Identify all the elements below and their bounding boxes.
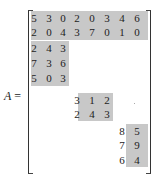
matrix-entry: 3 [42, 56, 56, 70]
matrix-entry: 0 [42, 25, 56, 39]
matrix-entry: 0 [85, 11, 99, 25]
matrix-entry: 2 [70, 107, 84, 121]
matrix-entry: 1 [85, 93, 99, 107]
matrix-entry: 2 [70, 11, 84, 25]
matrix-entry: 7 [85, 25, 99, 39]
matrix-entry: 7 [115, 138, 129, 152]
matrix-entry: 0 [42, 71, 56, 85]
matrix-entry: 3 [56, 71, 70, 85]
matrix-name: A [4, 89, 11, 103]
matrix-entry: 8 [115, 124, 129, 138]
matrix-entry: 4 [56, 25, 70, 39]
matrix-entry: 4 [115, 11, 129, 25]
matrix-entry: 3 [70, 93, 84, 107]
matrix-entry: 9 [130, 138, 144, 152]
matrix-entry: 3 [100, 107, 114, 121]
matrix-entry: 3 [56, 41, 70, 55]
matrix-entry: 5 [27, 11, 41, 25]
matrix-entry: 0 [130, 25, 144, 39]
matrix-entry: 3 [70, 25, 84, 39]
matrix-entry: 6 [56, 56, 70, 70]
matrix-entry: 4 [42, 41, 56, 55]
matrix-entry: 5 [130, 124, 144, 138]
matrix-entry: 0 [100, 25, 114, 39]
matrix-entry: 2 [100, 93, 114, 107]
equals-sign: = [14, 89, 21, 103]
matrix-entry: 7 [27, 56, 41, 70]
matrix-entry: 2 [27, 41, 41, 55]
matrix-entry: 3 [42, 11, 56, 25]
matrix-entry: 6 [115, 153, 129, 167]
matrix-entry: 3 [100, 11, 114, 25]
matrix-entry: 1 [115, 25, 129, 39]
stray-mark [134, 103, 135, 104]
matrix-entry: 4 [130, 153, 144, 167]
matrix-entry: 0 [56, 11, 70, 25]
matrix-entry: 5 [27, 71, 41, 85]
matrix-entry: 4 [85, 107, 99, 121]
matrix-entry: 2 [27, 25, 41, 39]
matrix-entry: 6 [130, 11, 144, 25]
matrix-label: A = [4, 89, 21, 104]
